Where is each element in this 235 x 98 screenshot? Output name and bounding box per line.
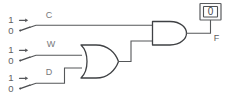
switch-w[interactable]: 1 0 (8, 44, 30, 66)
or-gate[interactable] (81, 45, 119, 78)
wire-c (30, 25, 153, 27)
wire-w (30, 55, 82, 57)
switch-c-terminal-arrowhead (25, 18, 28, 22)
switch-d-terminal-arrowhead (25, 76, 28, 80)
output-display-value: 0 (208, 6, 214, 17)
signal-label-d: D (46, 67, 53, 77)
switch-d-low-terminal-label: 0 (8, 83, 13, 94)
switch-c-low-terminal-label: 0 (8, 25, 13, 36)
and-gate[interactable] (153, 22, 187, 46)
wire-d (30, 68, 82, 85)
output-display-f[interactable]: 0 (200, 4, 221, 21)
switch-c-high-terminal-label: 1 (8, 14, 13, 25)
switch-w-lever[interactable] (20, 57, 30, 60)
circuit-canvas: 1 0 C 1 0 W 1 0 (0, 0, 235, 98)
switch-d-high-terminal-label: 1 (8, 72, 13, 83)
logic-circuit-diagram: 1 0 C 1 0 W 1 0 (0, 0, 235, 98)
wire-or-to-and (119, 41, 153, 62)
switch-w-high-terminal-label: 1 (8, 44, 13, 55)
or-gate-body[interactable] (81, 45, 119, 78)
signal-label-w: W (47, 39, 56, 49)
switch-c-lever[interactable] (20, 27, 30, 30)
output-label-f: F (214, 33, 220, 43)
signal-label-c: C (46, 10, 53, 20)
and-gate-body[interactable] (153, 22, 187, 46)
switch-w-terminal-arrowhead (25, 48, 28, 52)
switch-d[interactable]: 1 0 (8, 72, 30, 94)
wire-output-f (187, 20, 211, 33)
switch-d-lever[interactable] (20, 85, 30, 88)
switch-c[interactable]: 1 0 (8, 14, 30, 36)
switch-w-low-terminal-label: 0 (8, 55, 13, 66)
